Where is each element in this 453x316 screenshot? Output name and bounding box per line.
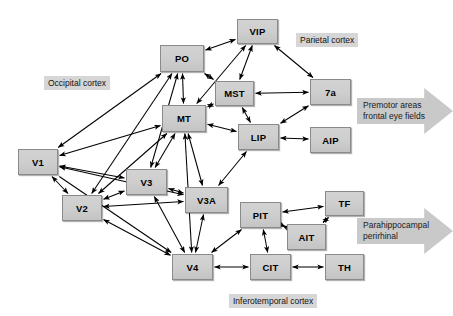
node-lip[interactable]: LIP — [238, 124, 279, 150]
node-v3a[interactable]: V3A — [185, 187, 228, 213]
diagram-canvas: V1V2V3V3AV4POMTVIPMSTLIP7aAIPPITAITTFCIT… — [0, 0, 453, 316]
edge-v3-mt — [155, 134, 175, 168]
node-mt[interactable]: MT — [162, 105, 206, 132]
node-label: PO — [175, 53, 189, 64]
flow-arrow-text: Parahippocampalperirhinal — [363, 220, 429, 242]
node-label: TH — [338, 262, 351, 273]
edge-ait-tf — [323, 218, 329, 223]
node-po[interactable]: PO — [160, 45, 204, 72]
node-label: MST — [224, 88, 245, 99]
node-v4[interactable]: V4 — [172, 254, 213, 280]
node-label: V4 — [186, 262, 198, 273]
connection-edges-layer — [0, 0, 453, 316]
node-label: V3 — [140, 177, 152, 188]
edge-mst-7a — [256, 92, 309, 93]
edge-v2-v4 — [104, 220, 171, 256]
region-label-inferotemporal: Inferotemporal cortex — [229, 294, 317, 308]
node-label: CIT — [263, 262, 279, 273]
node-v1[interactable]: V1 — [18, 149, 58, 175]
edge-mt-mst — [208, 104, 214, 107]
node-aip[interactable]: AIP — [310, 127, 351, 153]
edge-v3a-lip — [219, 152, 247, 186]
node-label: VIP — [250, 26, 266, 37]
node-7a[interactable]: 7a — [310, 79, 351, 105]
node-label: AIT — [299, 232, 315, 243]
edge-v2-v3 — [104, 191, 125, 199]
region-label-parietal: Parietal cortex — [296, 33, 358, 47]
edge-lip-aip — [281, 138, 309, 139]
node-label: MT — [177, 113, 191, 124]
edge-pit-cit — [263, 230, 267, 253]
edge-po-mst — [205, 74, 214, 80]
edge-pit-tf — [283, 206, 324, 212]
flow-arrow-line1: Parahippocampal — [363, 220, 429, 231]
node-label: V2 — [76, 203, 88, 214]
edge-mst-lip — [242, 108, 250, 123]
node-label: TF — [338, 198, 350, 209]
node-label: V1 — [32, 157, 44, 168]
node-vip[interactable]: VIP — [237, 19, 278, 44]
edge-lip-7a — [281, 106, 309, 124]
edge-v3a-v4 — [196, 215, 204, 253]
edge-po-mt — [183, 74, 184, 104]
edge-v2-v3a — [104, 202, 184, 207]
node-cit[interactable]: CIT — [250, 254, 291, 280]
node-label: 7a — [325, 87, 336, 98]
edge-v1-v2 — [52, 177, 68, 194]
edge-v4-pit — [212, 230, 242, 253]
edge-pit-ait — [283, 226, 286, 228]
node-label: AIP — [322, 135, 338, 146]
node-label: V3A — [197, 195, 216, 206]
edge-mt-lip — [208, 124, 237, 131]
flow-arrow-text: Premotor areasfrontal eye fields — [363, 100, 425, 122]
edge-po-vip — [206, 39, 236, 50]
node-tf[interactable]: TF — [325, 191, 364, 216]
node-v3[interactable]: V3 — [126, 169, 167, 195]
node-ait[interactable]: AIT — [287, 224, 326, 250]
region-label-occipital: Occipital cortex — [44, 76, 110, 90]
edge-vip-7a — [274, 46, 313, 78]
flow-arrow-parahippocampal: Parahippocampalperirhinal — [357, 208, 453, 254]
edge-v1-v3 — [60, 166, 125, 178]
node-label: LIP — [251, 132, 266, 143]
flow-arrow-line2: frontal eye fields — [363, 111, 425, 122]
node-pit[interactable]: PIT — [240, 202, 281, 228]
edge-v3a-mt — [188, 134, 202, 186]
node-label: PIT — [253, 210, 268, 221]
flow-arrow-line1: Premotor areas — [363, 100, 425, 111]
node-v2[interactable]: V2 — [62, 195, 102, 221]
node-mst[interactable]: MST — [215, 81, 254, 106]
flow-arrow-line2: perirhinal — [363, 231, 429, 242]
flow-arrow-premotor: Premotor areasfrontal eye fields — [357, 88, 453, 134]
edge-v1-mt — [60, 126, 161, 156]
node-th[interactable]: TH — [325, 254, 364, 280]
